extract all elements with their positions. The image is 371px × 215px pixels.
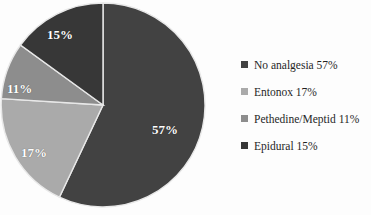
pie-chart: 57% 17% 11% 15% (0, 0, 215, 215)
legend-item-pethedine-meptid: Pethedine/Meptid 11% (241, 105, 371, 132)
chart-legend: No analgesia 57% Entonox 17% Pethedine/M… (241, 51, 371, 159)
legend-item-label: Entonox 17% (254, 86, 317, 98)
legend-item-label: No analgesia 57% (254, 59, 338, 71)
legend-swatch-icon (241, 61, 248, 68)
pie-chart-svg (0, 0, 215, 215)
pie-slice-label-epidural: 15% (47, 27, 73, 43)
legend-item-entonox: Entonox 17% (241, 78, 371, 105)
legend-item-label: Epidural 15% (254, 140, 318, 152)
legend-swatch-icon (241, 142, 248, 149)
legend-item-no-analgesia: No analgesia 57% (241, 51, 371, 78)
legend-swatch-icon (241, 115, 248, 122)
pie-slice-label-no-analgesia: 57% (152, 122, 178, 138)
legend-item-epidural: Epidural 15% (241, 132, 371, 159)
legend-swatch-icon (241, 88, 248, 95)
pie-slice-label-entonox: 17% (21, 145, 47, 161)
legend-item-label: Pethedine/Meptid 11% (254, 113, 359, 125)
pie-slice-label-pethedine: 11% (7, 81, 32, 97)
pie-chart-figure: 57% 17% 11% 15% No analgesia 57% Entonox… (0, 0, 371, 215)
